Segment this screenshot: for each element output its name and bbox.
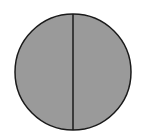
circle-diagram (0, 0, 145, 140)
